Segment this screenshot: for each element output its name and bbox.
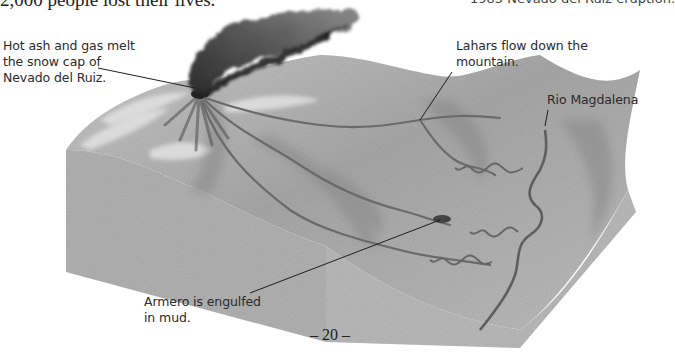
label-volcano-line-2: the snow cap of (3, 54, 135, 70)
label-lahars-line-1: Lahars flow down the (456, 38, 588, 54)
label-armero-line-2: in mud. (144, 310, 261, 326)
label-lahars-line-2: mountain. (456, 54, 588, 70)
label-armero: Armero is engulfed in mud. (144, 294, 261, 326)
label-armero-line-1: Armero is engulfed (144, 294, 261, 310)
label-volcano: Hot ash and gas melt the snow cap of Nev… (3, 38, 135, 86)
label-rio-magdalena: Rio Magdalena (547, 92, 638, 108)
page-number: – 20 – (300, 326, 360, 344)
label-lahars: Lahars flow down the mountain. (456, 38, 588, 70)
label-river-line-1: Rio Magdalena (547, 92, 638, 108)
label-volcano-line-1: Hot ash and gas melt (3, 38, 135, 54)
label-volcano-line-3: Nevado del Ruiz. (3, 70, 135, 86)
